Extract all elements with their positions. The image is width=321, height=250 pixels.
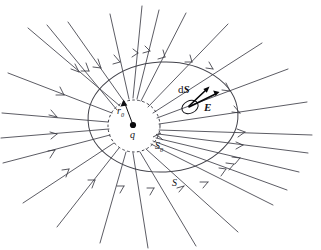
figure-canvas xyxy=(0,0,321,250)
label-area-element-dS: dS xyxy=(178,84,190,95)
label-dS-S: S xyxy=(184,83,190,95)
label-radius-r0: r0 xyxy=(117,106,124,118)
label-outer-surface-S: S xyxy=(172,178,177,188)
label-inner-surface-S0: S0 xyxy=(155,141,163,153)
field-lines-group xyxy=(1,6,312,248)
label-field-E: E xyxy=(204,102,211,113)
outer-surface-S xyxy=(85,58,241,176)
label-charge-q: q xyxy=(130,130,135,140)
gauss-law-figure: r0 q S0 S dS E xyxy=(0,0,321,250)
point-charge-q xyxy=(130,122,136,128)
